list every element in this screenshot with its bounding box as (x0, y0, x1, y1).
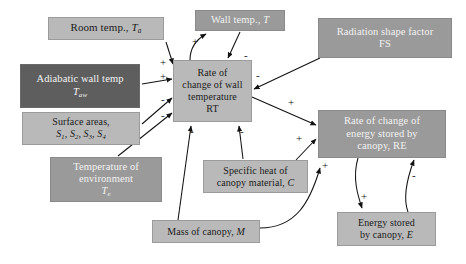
rate-of-change-wall-temperature-node-line: change of wall (182, 79, 242, 91)
energy-stored-by-canopy-node: Energy storedby canopy, E (337, 212, 436, 246)
connector-room-temp-to-rt (166, 42, 173, 64)
wall-temp-node-line-text: Wall temp., (211, 14, 263, 25)
surface-areas-node: Surface areas,S1, S2, S3, S4 (22, 112, 140, 145)
temperature-of-environment-node: Temperature ofenvironmentTe (50, 157, 162, 202)
temperature-of-environment-node-line: Temperature of (73, 161, 139, 173)
connector-radiation-shape-factor-to-rt (254, 58, 320, 89)
adiabatic-wall-temp-node-line: Adiabatic wall temp (36, 73, 123, 85)
mass-of-canopy-node-line-text: Mass of canopy, (167, 226, 236, 237)
link-re-to-energy-stored-polarity: + (361, 191, 367, 202)
radiation-shape-factor-node-line: FS (379, 38, 391, 50)
mass-of-canopy-node: Mass of canopy, M (152, 220, 260, 243)
link-surface-areas-to-rt-polarity: - (161, 94, 165, 105)
connector-mass-canopy-to-rt (178, 126, 191, 220)
room-temp-node: Room temp., Ta (48, 17, 164, 40)
room-temp-node-symbol-subscript: a (138, 27, 142, 35)
link-radiation-shape-factor-to-rt-polarity: - (256, 70, 260, 81)
room-temp-node-line: Room temp., Ta (70, 21, 141, 36)
rate-of-change-energy-stored-node-line: Rate of change of (344, 115, 420, 127)
surface-areas-node-symbols-line: S1, S2, S3, S4 (56, 128, 106, 141)
connector-energy-stored-to-re (406, 160, 414, 212)
adiabatic-wall-temp-node-symbol-line: Taw (73, 86, 87, 99)
connector-surface-areas-to-rt (142, 98, 172, 124)
rate-of-change-wall-temperature-node-line: Rate of (198, 67, 228, 79)
wall-temp-node: Wall temp., T (195, 10, 285, 31)
energy-stored-by-canopy-node-symbol: E (407, 229, 413, 240)
link-mass-canopy-to-re-polarity: + (322, 160, 328, 171)
link-room-temp-to-rt-polarity: + (160, 57, 166, 68)
link-rt-to-wall-temp-polarity: + (192, 36, 198, 47)
specific-heat-canopy-material-node: Specific heat ofcanopy material, C (203, 160, 308, 193)
connector-rt-to-re (252, 97, 316, 125)
link-adiabatic-wall-temp-to-rt-polarity: + (160, 71, 166, 82)
specific-heat-canopy-material-node-line: Specific heat of (223, 165, 287, 177)
rate-of-change-energy-stored-node: Rate of change ofenergy stored bycanopy,… (318, 110, 446, 158)
link-temperature-environment-to-rt-polarity: - (161, 110, 165, 121)
surface-areas-node-symbol-subscript: 4 (102, 133, 105, 140)
link-specific-heat-to-re-polarity: + (296, 133, 302, 144)
rate-of-change-energy-stored-node-line: canopy, RE (357, 140, 406, 152)
adiabatic-wall-temp-node-symbol-subscript: aw (79, 91, 87, 98)
link-wall-temp-to-rt-polarity: - (244, 50, 248, 61)
wall-temp-node-line: Wall temp., T (211, 14, 269, 26)
mass-of-canopy-node-line: Mass of canopy, M (167, 226, 245, 238)
temperature-of-environment-node-symbol-line: Te (101, 185, 110, 198)
rate-of-change-wall-temperature-node: Rate ofchange of walltemperatureRT (173, 60, 252, 122)
link-rt-to-re-polarity: + (288, 97, 294, 108)
room-temp-node-line-text: Room temp., (70, 21, 131, 33)
link-specific-heat-to-rt-polarity: - (240, 126, 244, 137)
mass-of-canopy-node-symbol: M (236, 226, 244, 237)
temperature-of-environment-node-line: environment (79, 173, 133, 185)
specific-heat-canopy-material-node-line-text: canopy material, (217, 177, 288, 188)
surface-areas-node-line: Surface areas, (52, 116, 109, 128)
energy-stored-by-canopy-node-line: Energy stored (358, 217, 415, 229)
energy-stored-by-canopy-node-line: by canopy, E (360, 229, 413, 241)
energy-stored-by-canopy-node-line-text: by canopy, (360, 229, 407, 240)
rate-of-change-wall-temperature-node-line: RT (206, 103, 218, 115)
wall-temp-node-symbol: T (263, 14, 269, 25)
radiation-shape-factor-node: Radiation shape factorFS (318, 18, 452, 58)
specific-heat-canopy-material-node-symbol: C (288, 177, 295, 188)
link-mass-canopy-to-rt-polarity: - (190, 126, 194, 137)
rate-of-change-energy-stored-node-line: energy stored by (346, 128, 417, 140)
temperature-of-environment-node-symbol-subscript: e (107, 190, 110, 197)
adiabatic-wall-temp-node: Adiabatic wall tempTaw (20, 64, 140, 108)
rate-of-change-wall-temperature-node-line: temperature (188, 91, 237, 103)
connector-wall-temp-to-rt (228, 32, 240, 58)
specific-heat-canopy-material-node-line: canopy material, C (217, 177, 295, 189)
connector-adiabatic-wall-temp-to-rt (142, 79, 172, 84)
radiation-shape-factor-node-line: Radiation shape factor (337, 26, 434, 38)
diagram-canvas: Room temp., TaWall temp., TRadiation sha… (0, 0, 466, 264)
link-energy-stored-to-re-polarity: - (412, 170, 416, 181)
